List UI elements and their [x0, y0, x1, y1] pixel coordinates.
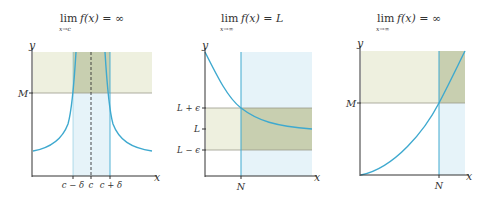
- y-band-above-m: [361, 51, 439, 103]
- x-tick-label-n: N: [236, 181, 246, 192]
- y-tick-label-l: L: [193, 124, 200, 134]
- y-tick-label-l-plus-epsilon: L + ϵ: [176, 103, 200, 113]
- panel-limit-x-to-infinity-infinite: lim x→∞ f(x) = ∞ y x M N: [345, 12, 473, 191]
- title-expression: f(x) = ∞: [79, 12, 124, 25]
- x-tick-label-c-minus-delta: c − δ: [62, 180, 84, 190]
- title-lim: lim: [377, 12, 395, 25]
- limit-diagrams: lim x→c f(x) = ∞ y x M c − δ c c + δ: [0, 0, 483, 200]
- x-axis-label: x: [466, 170, 473, 183]
- x-tick-label-c-plus-delta: c + δ: [100, 180, 122, 190]
- title-lim: lim: [221, 12, 239, 25]
- x-axis-label: x: [154, 171, 161, 184]
- panel-limit-x-to-infinity-finite: lim x→∞ f(x) = L y x L + ϵ L L − ϵ N: [176, 12, 321, 192]
- title-expression: f(x) = L: [240, 12, 283, 25]
- panel-title: lim x→∞ f(x) = ∞: [376, 12, 441, 32]
- panel-limit-x-to-c-infinite: lim x→c f(x) = ∞ y x M c − δ c c + δ: [17, 12, 161, 190]
- x-axis-label: x: [314, 171, 321, 184]
- panel-title: lim x→c f(x) = ∞: [59, 12, 124, 32]
- x-tick-label-n: N: [434, 180, 444, 191]
- x-region-beyond-n: [439, 103, 465, 175]
- y-tick-label-l-minus-epsilon: L − ϵ: [176, 145, 200, 155]
- title-subscript: x→c: [59, 25, 71, 32]
- y-axis-label: y: [28, 39, 36, 52]
- overlap-region: [73, 52, 110, 93]
- epsilon-band: [206, 108, 241, 150]
- y-axis-label: y: [201, 39, 209, 52]
- title-lim: lim: [60, 12, 78, 25]
- x-tick-label-c: c: [89, 180, 94, 190]
- title-subscript: x→∞: [220, 25, 233, 32]
- title-expression: f(x) = ∞: [396, 12, 441, 25]
- title-subscript: x→∞: [376, 25, 389, 32]
- panel-title: lim x→∞ f(x) = L: [220, 12, 283, 32]
- y-tick-label-m: M: [17, 88, 29, 99]
- y-tick-label-m: M: [345, 98, 357, 109]
- y-axis-label: y: [356, 37, 364, 50]
